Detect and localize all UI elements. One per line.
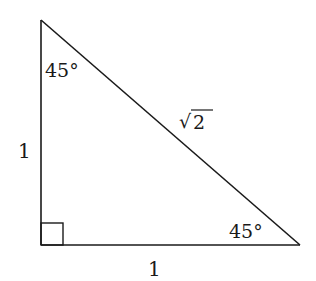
hypotenuse bbox=[41, 20, 300, 245]
left-leg-label: 1 bbox=[18, 139, 31, 163]
hypotenuse-label: √ 2 bbox=[179, 110, 213, 133]
bottom-leg-label: 1 bbox=[148, 257, 161, 281]
bottom-right-angle-label: 45° bbox=[229, 220, 263, 242]
right-angle-marker bbox=[41, 223, 63, 245]
triangle-diagram: 45° √ 2 45° 1 1 bbox=[0, 0, 316, 281]
radicand: 2 bbox=[193, 111, 205, 133]
top-angle-label: 45° bbox=[45, 59, 79, 81]
triangle-outline bbox=[41, 20, 300, 245]
radical-sign: √ bbox=[179, 110, 192, 132]
